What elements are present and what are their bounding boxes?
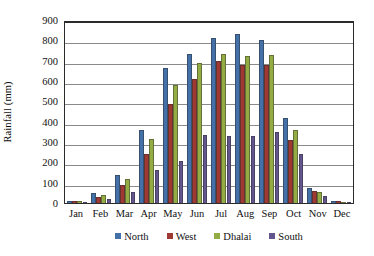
x-axis-tick-labels: JanFebMarAprMayJunJulAugSepOctNovDec [64, 206, 354, 222]
x-tick-label: Feb [88, 206, 112, 222]
bar [115, 175, 119, 203]
bar [307, 188, 311, 203]
bars-layer [65, 23, 353, 203]
y-axis-tick-labels: 9008007006005004003002001000 [24, 21, 58, 204]
x-tick-label: Jan [64, 206, 88, 222]
y-tick-label: 400 [24, 118, 58, 128]
bar [144, 154, 148, 203]
legend-label: South [278, 231, 303, 242]
bar [221, 54, 225, 203]
bar [96, 197, 100, 204]
legend-swatch-icon [269, 233, 275, 239]
rainfall-bar-chart: Rainfall (mm) 90080070060050040030020010… [0, 0, 374, 256]
bar-group [161, 23, 185, 203]
bar [317, 192, 321, 203]
y-tick-label: 500 [24, 97, 58, 107]
x-tick-label: Jul [209, 206, 233, 222]
y-tick-label: 800 [24, 36, 58, 46]
bar [245, 56, 249, 203]
legend-item[interactable]: South [269, 231, 303, 242]
bar [91, 193, 95, 203]
y-tick-label: 300 [24, 138, 58, 148]
bar [83, 202, 87, 203]
bar [101, 195, 105, 203]
bar [269, 55, 273, 203]
legend-item[interactable]: West [167, 231, 197, 242]
bar [179, 161, 183, 203]
bar [251, 136, 255, 203]
x-tick-label: Sep [257, 206, 281, 222]
bar-group [281, 23, 305, 203]
y-tick-label: 0 [24, 199, 58, 209]
legend-label: Dhalai [223, 231, 251, 242]
bar [264, 65, 268, 203]
x-tick-label: Oct [282, 206, 306, 222]
y-tick-label: 600 [24, 77, 58, 87]
chart-legend: NorthWestDhalaiSouth [64, 228, 354, 244]
bar [192, 79, 196, 203]
bar [131, 192, 135, 203]
legend-label: West [176, 231, 197, 242]
bar [240, 65, 244, 203]
bar [168, 104, 172, 203]
x-tick-label: Jun [185, 206, 209, 222]
bar-group [209, 23, 233, 203]
bar [331, 201, 335, 203]
bar-group [65, 23, 89, 203]
x-tick-label: Nov [306, 206, 330, 222]
bar [139, 130, 143, 203]
x-tick-label: Aug [233, 206, 257, 222]
bar-group [89, 23, 113, 203]
bar [299, 154, 303, 203]
y-axis-title: Rainfall (mm) [2, 52, 13, 172]
plot-area [64, 21, 354, 204]
bar [312, 191, 316, 203]
bar [227, 136, 231, 203]
bar [155, 170, 159, 203]
y-tick-label: 100 [24, 179, 58, 189]
legend-item[interactable]: North [115, 231, 149, 242]
bar [323, 196, 327, 203]
bar [163, 68, 167, 203]
bar [235, 34, 239, 203]
bar-group [137, 23, 161, 203]
bar [288, 140, 292, 203]
bar [283, 118, 287, 203]
y-tick-label: 900 [24, 16, 58, 26]
bar [216, 61, 220, 203]
bar [187, 54, 191, 203]
x-tick-label: Dec [330, 206, 354, 222]
bar [211, 38, 215, 203]
bar [259, 40, 263, 203]
bar [293, 130, 297, 203]
legend-swatch-icon [115, 233, 121, 239]
bar [203, 135, 207, 203]
bar [125, 179, 129, 203]
bar [67, 201, 71, 203]
legend-label: North [124, 231, 149, 242]
bar-group [305, 23, 329, 203]
bar [173, 85, 177, 203]
x-tick-label: Apr [137, 206, 161, 222]
legend-swatch-icon [214, 233, 220, 239]
legend-swatch-icon [167, 233, 173, 239]
y-tick-label: 700 [24, 57, 58, 67]
bar-group [113, 23, 137, 203]
legend-item[interactable]: Dhalai [214, 231, 251, 242]
bar [120, 185, 124, 203]
x-tick-label: May [161, 206, 185, 222]
bar-group [257, 23, 281, 203]
bar [149, 139, 153, 203]
bar [341, 202, 345, 203]
bar [77, 201, 81, 203]
bar [347, 202, 351, 203]
bar [275, 132, 279, 203]
y-tick-label: 200 [24, 158, 58, 168]
x-tick-label: Mar [112, 206, 136, 222]
bar-group [233, 23, 257, 203]
bar-group [329, 23, 353, 203]
bar [197, 63, 201, 203]
bar [72, 201, 76, 203]
bar [107, 199, 111, 203]
bar-group [185, 23, 209, 203]
